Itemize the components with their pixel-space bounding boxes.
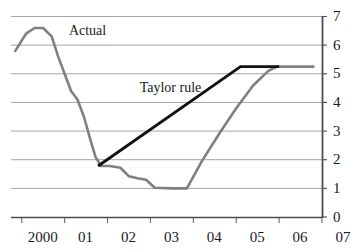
chart-plot-area bbox=[0, 0, 356, 252]
y-tick-label: 2 bbox=[333, 152, 341, 167]
y-tick-label: 7 bbox=[333, 9, 341, 24]
y-tick-label: 5 bbox=[333, 66, 341, 81]
gridlines-group bbox=[11, 17, 322, 189]
y-tick-label: 6 bbox=[333, 38, 341, 53]
chart-container: 76543210 200001020304050607 Actual Taylo… bbox=[0, 0, 356, 252]
y-tick-label: 1 bbox=[333, 181, 341, 196]
series-label-actual: Actual bbox=[69, 24, 106, 38]
y-tick-label: 4 bbox=[333, 95, 341, 110]
y-tick-label: 3 bbox=[333, 124, 341, 139]
series-label-taylor-rule: Taylor rule bbox=[140, 81, 202, 95]
series-line-actual bbox=[15, 28, 313, 188]
y-tick-label: 0 bbox=[333, 210, 341, 225]
x-tick-label: 07 bbox=[316, 230, 356, 245]
